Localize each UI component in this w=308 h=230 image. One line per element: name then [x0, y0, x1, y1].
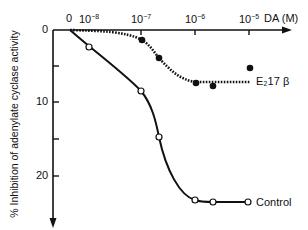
e2-point: [139, 37, 146, 44]
x-tick-label-zero: 0: [66, 13, 72, 24]
x-tick-exponent: −8: [91, 13, 99, 20]
control-point: [192, 197, 198, 203]
axes: [53, 30, 284, 220]
x-tick-label-1e-7: 10−7: [131, 13, 151, 25]
x-tick-base: 10: [79, 13, 91, 25]
e2-point: [210, 83, 217, 90]
x-axis-title: DA (M): [264, 13, 298, 24]
x-tick-base: 10: [239, 13, 251, 25]
control-point: [138, 88, 144, 94]
y-tick-label-10: 10: [36, 96, 48, 107]
x-tick-exponent: −5: [251, 13, 259, 20]
e2-point: [247, 65, 254, 72]
control-point: [210, 199, 216, 205]
x-axis-arrow-icon: [282, 27, 292, 34]
y-tick-label-20: 20: [36, 170, 48, 181]
control-point: [86, 44, 92, 50]
y-ticks: [53, 66, 59, 176]
y-axis-arrow-icon: [50, 218, 57, 228]
control-point: [156, 134, 162, 140]
control-point: [245, 199, 251, 205]
x-tick-label-1e-5: 10−5: [239, 13, 259, 25]
x-tick-label-1e-8: 10−8: [79, 13, 99, 25]
y-axis-title: % Inhibition of adenylate cyclase activi…: [8, 30, 20, 217]
x-tick-base: 10: [185, 13, 197, 25]
x-tick-exponent: −7: [143, 13, 151, 20]
x-tick-label-1e-6: 10−6: [185, 13, 205, 25]
control-series-label: Control: [256, 197, 291, 208]
e2-series-label: E₂17 β: [256, 76, 289, 87]
e2-point: [156, 55, 163, 62]
e2-point: [193, 80, 200, 87]
x-tick-exponent: −6: [197, 13, 205, 20]
y-tick-label-0: 0: [42, 24, 48, 35]
x-tick-base: 10: [131, 13, 143, 25]
